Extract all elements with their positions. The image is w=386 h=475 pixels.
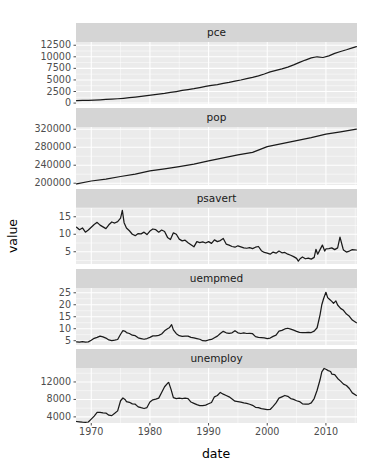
y-tick-label-psavert-10: 10 [59, 228, 71, 239]
facet-strip-label-pce: pce [207, 26, 226, 38]
facet-strip-label-pop: pop [207, 111, 227, 123]
facet-strip-label-unemploy: unemploy [190, 352, 242, 364]
chart-root: pce02500500075001000012500pop20000024000… [0, 0, 386, 475]
panel-background-pce [76, 42, 357, 104]
y-tick-label-pce-10000: 10000 [40, 51, 71, 62]
facet-panels: pce02500500075001000012500pop20000024000… [34, 23, 357, 423]
facet-strip-label-uempmed: uempmed [190, 272, 243, 284]
y-tick-label-uempmed-5: 5 [65, 335, 71, 346]
y-tick-label-pce-5000: 5000 [47, 74, 71, 85]
facet-unemploy: unemploy4000800012000 [40, 349, 357, 423]
x-tick-label-1980: 1980 [138, 426, 162, 437]
y-tick-label-unemploy-4000: 4000 [47, 411, 71, 422]
y-tick-label-pce-12500: 12500 [40, 39, 71, 50]
x-axis-title: date [202, 446, 230, 461]
y-tick-label-pop-240000: 240000 [34, 159, 71, 170]
y-tick-label-pop-280000: 280000 [34, 141, 71, 152]
faceted-line-chart: pce02500500075001000012500pop20000024000… [0, 0, 386, 475]
y-tick-label-uempmed-10: 10 [59, 323, 71, 334]
x-tick-label-1970: 1970 [79, 426, 103, 437]
facet-psavert: psavert51015 [59, 189, 357, 264]
y-tick-label-pce-2500: 2500 [47, 86, 71, 97]
y-tick-label-psavert-15: 15 [59, 211, 71, 222]
facet-uempmed: uempmed510152025 [59, 269, 357, 346]
y-tick-label-pop-320000: 320000 [34, 123, 71, 134]
x-tick-label-1990: 1990 [196, 426, 220, 437]
y-tick-label-uempmed-25: 25 [59, 287, 71, 298]
x-tick-label-2000: 2000 [255, 426, 279, 437]
y-tick-label-unemploy-12000: 12000 [40, 376, 71, 387]
x-tick-label-2010: 2010 [314, 426, 338, 437]
y-tick-label-pce-0: 0 [65, 97, 71, 108]
facet-pce: pce02500500075001000012500 [40, 23, 357, 108]
y-tick-label-pce-7500: 7500 [47, 62, 71, 73]
y-tick-label-unemploy-8000: 8000 [47, 393, 71, 404]
y-tick-label-uempmed-20: 20 [59, 299, 71, 310]
facet-pop: pop200000240000280000320000 [34, 108, 357, 188]
y-tick-label-psavert-5: 5 [65, 246, 71, 257]
y-axis-title: value [5, 219, 20, 253]
y-tick-label-pop-200000: 200000 [34, 177, 71, 188]
y-tick-label-uempmed-15: 15 [59, 311, 71, 322]
facet-strip-label-psavert: psavert [197, 192, 237, 204]
